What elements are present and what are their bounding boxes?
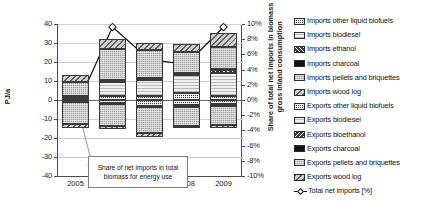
y-tick-label-secondary: 0% [247, 96, 273, 104]
legend-item-label: Exports other liquid biofuels [307, 102, 393, 110]
legend-item[interactable]: Exports pellets and briquettes [294, 156, 437, 170]
bar-segment [173, 44, 200, 52]
legend-line-label: Total net imports [%] [308, 187, 372, 195]
bar-segment [136, 43, 163, 50]
legend-swatch-icon [294, 174, 305, 181]
chart-legend: Imports other liquid biofuelsImports bio… [294, 14, 437, 198]
legend-item[interactable]: Imports pellets and briquettes [294, 71, 437, 85]
chart-root: PJ/a Share of total net imports in bioma… [0, 0, 437, 218]
legend-swatch-icon [294, 60, 305, 67]
y-tick-mark-secondary [242, 146, 245, 147]
y-tick-mark-secondary [242, 115, 245, 116]
bar-segment [62, 102, 89, 124]
bar-segment [99, 49, 126, 81]
y-tick-mark-primary [54, 62, 57, 63]
bar-segment [173, 93, 200, 100]
legend-item-label: Imports biodiesel [307, 31, 360, 39]
bar-segment [99, 39, 126, 49]
legend-item[interactable]: Exports wood log [294, 170, 437, 184]
bar-segment [210, 73, 237, 96]
legend-item[interactable]: Exports charcoal [294, 142, 437, 156]
y-tick-label-secondary: -6% [247, 142, 273, 150]
bar-segment [62, 82, 89, 96]
legend-swatch-icon [294, 89, 305, 96]
y-tick-mark-secondary [242, 161, 245, 162]
legend-item-label: Imports ethanol [307, 45, 356, 53]
bar-segment [173, 107, 200, 125]
y-tick-mark-secondary [242, 176, 245, 177]
y-tick-mark-primary [54, 43, 57, 44]
y-tick-label-primary: 20 [30, 58, 52, 66]
y-tick-label-secondary: 4% [247, 66, 273, 74]
y-tick-mark-primary [54, 119, 57, 120]
y-tick-mark-primary [54, 176, 57, 177]
legend-item-label: Imports other liquid biofuels [307, 17, 393, 25]
legend-item-label: Imports charcoal [307, 60, 359, 68]
y-tick-mark-secondary [242, 54, 245, 55]
bar-group [210, 0, 237, 218]
y-tick-label-primary: 10 [30, 77, 52, 85]
y-tick-mark-secondary [242, 85, 245, 86]
bar-segment [136, 133, 163, 136]
y-tick-label-primary: -30 [30, 153, 52, 161]
y-tick-mark-primary [54, 157, 57, 158]
bar-segment [99, 126, 126, 129]
bar-segment [210, 106, 237, 126]
bar-segment [99, 80, 126, 82]
legend-item[interactable]: Imports biodiesel [294, 28, 437, 42]
legend-swatch-icon [294, 159, 305, 166]
line-marker-icon [294, 188, 307, 195]
y-tick-mark-secondary [242, 130, 245, 131]
legend-item[interactable]: Imports other liquid biofuels [294, 14, 437, 28]
y-tick-label-secondary: 6% [247, 50, 273, 58]
y-tick-label-primary: 40 [30, 20, 52, 28]
legend-item-label: Exports bioethanol [307, 131, 366, 139]
bar-group [136, 0, 163, 218]
legend-item[interactable]: Imports charcoal [294, 57, 437, 71]
legend-item-label: Exports biodiesel [307, 116, 361, 124]
y-axis-label-primary: PJ/a [3, 74, 12, 120]
y-tick-mark-secondary [242, 100, 245, 101]
legend-swatch-icon [294, 18, 305, 25]
legend-item[interactable]: Imports wood log [294, 85, 437, 99]
bar-segment [99, 82, 126, 96]
bar-segment [62, 96, 89, 98]
y-tick-mark-primary [54, 24, 57, 25]
y-tick-label-primary: 30 [30, 39, 52, 47]
legend-item[interactable]: Imports ethanol [294, 42, 437, 56]
y-tick-mark-secondary [242, 24, 245, 25]
y-tick-label-secondary: -8% [247, 157, 273, 165]
legend-swatch-icon [294, 74, 305, 81]
bar-segment [99, 104, 126, 126]
legend-swatch-icon [294, 145, 305, 152]
bar-segment [173, 52, 200, 73]
bar-segment [62, 124, 89, 128]
bar-segment [136, 80, 163, 96]
y-tick-mark-secondary [242, 39, 245, 40]
legend-item[interactable]: Exports bioethanol [294, 128, 437, 142]
bar-segment [136, 107, 163, 133]
legend-item[interactable]: Exports biodiesel [294, 113, 437, 127]
bar-segment [210, 33, 237, 48]
y-tick-label-secondary: 10% [247, 20, 273, 28]
y-tick-label-primary: -10 [30, 115, 52, 123]
bar-segment [210, 47, 237, 69]
legend-item-label: Imports pellets and briquettes [307, 74, 399, 82]
legend-item-label: Exports wood log [307, 173, 361, 181]
y-tick-label-primary: 0 [30, 96, 52, 104]
legend-swatch-icon [294, 117, 305, 124]
legend-item-label: Exports pellets and briquettes [307, 159, 400, 167]
bar-segment [173, 75, 200, 93]
legend-item-line[interactable]: Total net imports [%] [294, 184, 437, 198]
y-tick-label-primary: -40 [30, 172, 52, 180]
bar-segment [210, 125, 237, 128]
bar-group [62, 0, 89, 218]
bar-group [99, 0, 126, 218]
legend-item[interactable]: Exports other liquid biofuels [294, 99, 437, 113]
bar-group [173, 0, 200, 218]
y-tick-label-secondary: -10% [247, 172, 273, 180]
bar-segment [173, 73, 200, 75]
y-tick-label-secondary: 8% [247, 35, 273, 43]
bar-segment [173, 126, 200, 129]
y-tick-mark-secondary [242, 70, 245, 71]
